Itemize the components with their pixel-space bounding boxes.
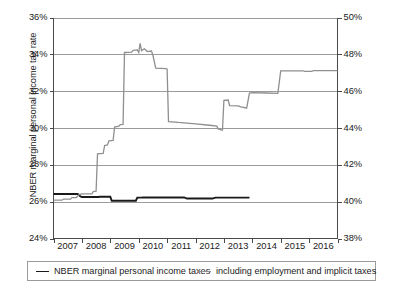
data-series-layer — [54, 43, 338, 200]
legend-swatch-black-icon — [36, 271, 49, 272]
plot-area — [0, 0, 403, 293]
legend-swatch-gray-icon — [198, 271, 211, 272]
series-line-1 — [54, 43, 338, 200]
legend-label-including: including employment and implicit taxes — [216, 266, 376, 276]
legend-entry-including: including employment and implicit taxes — [198, 262, 376, 280]
legend-label-nber: NBER marginal personal income taxes — [54, 266, 210, 276]
axis-tickmarks — [50, 19, 342, 243]
legend-entry-nber: NBER marginal personal income taxes — [36, 262, 210, 280]
series-line-0 — [54, 194, 250, 201]
chart-figure: NBER marginal personal income tax rate I… — [0, 0, 403, 293]
chart-legend: NBER marginal personal income taxes incl… — [27, 261, 376, 281]
